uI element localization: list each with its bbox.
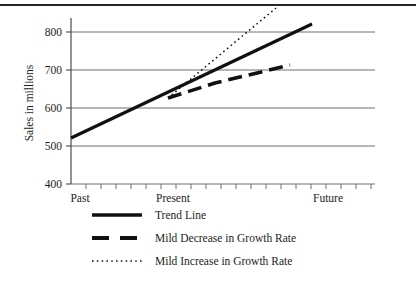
series-line-trend [71,24,312,138]
x-tick-marks [86,184,371,189]
sales-trend-chart: 800 700 600 500 400 Sales in millions Pa… [0,0,416,293]
y-tick-label-800: 800 [45,26,63,38]
y-axis-title: Sales in millions [23,64,35,141]
chart-legend: Trend Line Mild Decrease in Growth Rate … [92,209,296,267]
figure-container: 800 700 600 500 400 Sales in millions Pa… [0,0,416,293]
y-tick-marks [66,32,71,184]
x-tick-label-present: Present [156,192,191,204]
x-tick-label-past: Past [70,192,90,204]
y-tick-label-600: 600 [45,102,63,114]
legend-label-mild-decrease: Mild Decrease in Growth Rate [155,232,296,244]
gridlines [71,32,375,146]
legend-label-mild-increase: Mild Increase in Growth Rate [155,255,292,267]
legend-label-trend-line: Trend Line [155,209,206,221]
y-tick-label-700: 700 [45,64,63,76]
y-tick-label-400: 400 [45,178,63,190]
y-tick-label-500: 500 [45,140,63,152]
x-tick-label-future: Future [313,192,343,204]
